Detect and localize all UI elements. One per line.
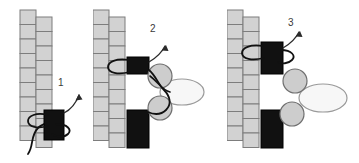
left-column xyxy=(227,10,243,141)
diagram-canvas: 1 xyxy=(0,0,359,163)
right-column xyxy=(243,17,259,148)
process-arrow xyxy=(64,94,83,113)
panel-1: 1 xyxy=(0,0,93,163)
process-arrow xyxy=(149,45,169,62)
left-column xyxy=(93,10,109,141)
nucleosome-upper xyxy=(283,69,307,93)
right-column xyxy=(109,17,125,148)
large-complex xyxy=(299,84,347,112)
nucleosome-lower xyxy=(280,102,304,126)
panel-2: 2 xyxy=(93,0,227,163)
process-arrow xyxy=(283,31,303,48)
step-label-3: 3 xyxy=(288,18,294,28)
dark-block-lower xyxy=(127,110,149,148)
panel-3: 3 xyxy=(227,0,359,163)
step-label-2: 2 xyxy=(150,24,156,34)
step-label-1: 1 xyxy=(58,78,64,88)
